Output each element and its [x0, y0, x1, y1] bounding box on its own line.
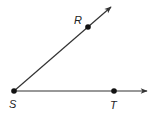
point-t: [111, 88, 117, 94]
label-r: R: [74, 14, 82, 26]
ray-sr: [14, 7, 111, 91]
point-s: [11, 88, 17, 94]
angle-diagram: R S T: [0, 0, 156, 118]
label-t: T: [110, 99, 118, 111]
label-s: S: [9, 98, 17, 110]
point-r: [85, 24, 91, 30]
